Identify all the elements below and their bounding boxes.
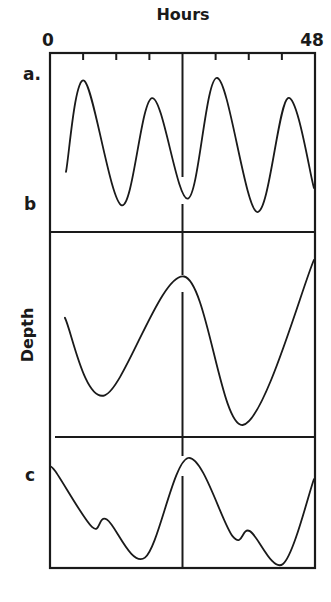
tide-chart: Hours 0 48 Depth a. b c [0,0,331,602]
tide-curve-b [65,260,314,425]
tide-curve-a [66,78,314,212]
x-tick-label-end: 48 [300,30,324,50]
x-tick-label-start: 0 [42,30,54,50]
y-axis-title: Depth [18,308,37,363]
panel-label-b: b [24,194,36,214]
panel-label-c: c [25,465,35,485]
panel-label-a: a. [23,64,41,84]
x-axis-title: Hours [156,5,209,24]
